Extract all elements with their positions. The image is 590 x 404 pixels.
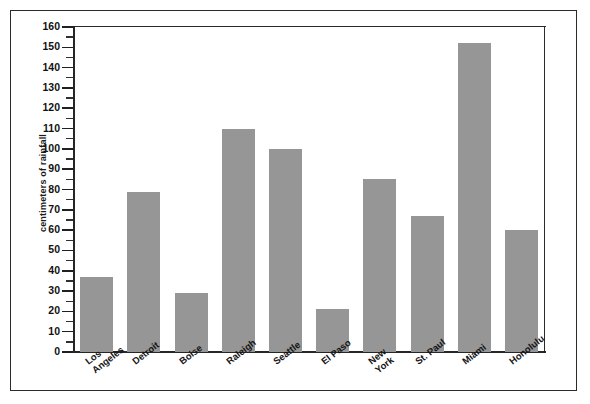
x-axis-tick-labels: Los AngelesDetroitBoiseRaleighSeattleEl … bbox=[0, 0, 590, 404]
x-axis-tick-label: New York bbox=[366, 345, 396, 375]
x-axis-tick-label: Boise bbox=[177, 342, 204, 367]
x-axis-tick-label: Raleigh bbox=[224, 337, 258, 367]
x-axis-tick-label: Detroit bbox=[130, 339, 161, 367]
x-axis-tick-label: St. Paul bbox=[413, 337, 447, 367]
x-axis-tick-label: Los Angeles bbox=[83, 335, 126, 375]
x-axis-tick-label: El Paso bbox=[319, 337, 353, 367]
x-axis-tick-label: Honolulu bbox=[507, 333, 546, 367]
figure: centimeters of rainfall 0102030405060708… bbox=[0, 0, 590, 404]
x-axis-tick-label: Seattle bbox=[271, 339, 302, 367]
x-axis-tick-label: Miami bbox=[460, 341, 488, 366]
